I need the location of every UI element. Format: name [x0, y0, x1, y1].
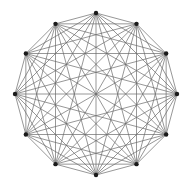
vertex-3 — [13, 92, 17, 96]
vertex-8 — [164, 132, 168, 136]
edge-2-7 — [26, 54, 137, 165]
edge-5-10 — [56, 54, 167, 165]
vertex-10 — [164, 51, 168, 55]
edge-7-9 — [137, 94, 178, 164]
edge-6-8 — [96, 135, 166, 176]
vertex-9 — [175, 92, 179, 96]
edge-5-9 — [56, 94, 178, 164]
edge-6-10 — [96, 54, 166, 176]
vertex-11 — [134, 22, 138, 26]
vertex-4 — [24, 132, 28, 136]
edge-3-4 — [15, 94, 26, 135]
edge-0-1 — [56, 13, 97, 24]
edge-0-11 — [96, 13, 137, 24]
vertex-6 — [94, 173, 98, 177]
vertex-2 — [24, 51, 28, 55]
edge-9-10 — [166, 54, 177, 95]
vertex-1 — [53, 22, 57, 26]
edge-4-11 — [26, 24, 137, 135]
edge-6-7 — [96, 164, 137, 175]
vertex-0 — [94, 11, 98, 15]
vertex-7 — [134, 162, 138, 166]
edge-1-8 — [56, 24, 167, 135]
edge-8-9 — [166, 94, 177, 135]
edge-9-11 — [137, 24, 178, 94]
vertex-5 — [53, 162, 57, 166]
graph-canvas — [0, 0, 188, 186]
edge-2-3 — [15, 54, 26, 95]
edge-5-6 — [56, 164, 97, 175]
edges-group — [15, 13, 177, 175]
complete-graph-k12 — [0, 0, 188, 186]
edge-3-11 — [15, 24, 137, 94]
